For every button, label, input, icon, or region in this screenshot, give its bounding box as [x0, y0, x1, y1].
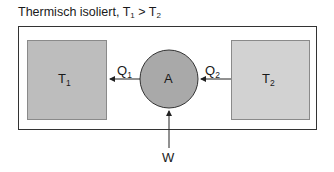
reservoir-t2-label: T2: [262, 71, 275, 88]
reservoir-t1-label: T1: [58, 71, 71, 88]
w-label: W: [162, 150, 174, 165]
q1-label: Q1: [117, 63, 132, 80]
q2-label: Q2: [205, 63, 220, 80]
flow-arrows: [0, 0, 334, 172]
engine-label: A: [164, 71, 173, 86]
